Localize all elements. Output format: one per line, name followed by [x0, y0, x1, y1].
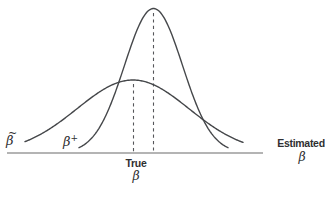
tilde-accent: ~	[8, 128, 17, 139]
beta-tilde-label: ~β	[6, 134, 14, 147]
beta-plus-glyph: β	[63, 134, 71, 149]
estimated-label: Estimated	[277, 138, 324, 149]
plus-superscript: +	[71, 133, 79, 143]
true-label: True	[126, 158, 147, 169]
estimated-beta-glyph: β	[298, 151, 305, 164]
curves-canvas	[0, 0, 325, 198]
estimator-distribution-figure: ~β β+ True β Estimated β	[0, 0, 325, 198]
true-beta-glyph: β	[132, 170, 139, 183]
beta-plus-label: β+	[63, 135, 78, 148]
